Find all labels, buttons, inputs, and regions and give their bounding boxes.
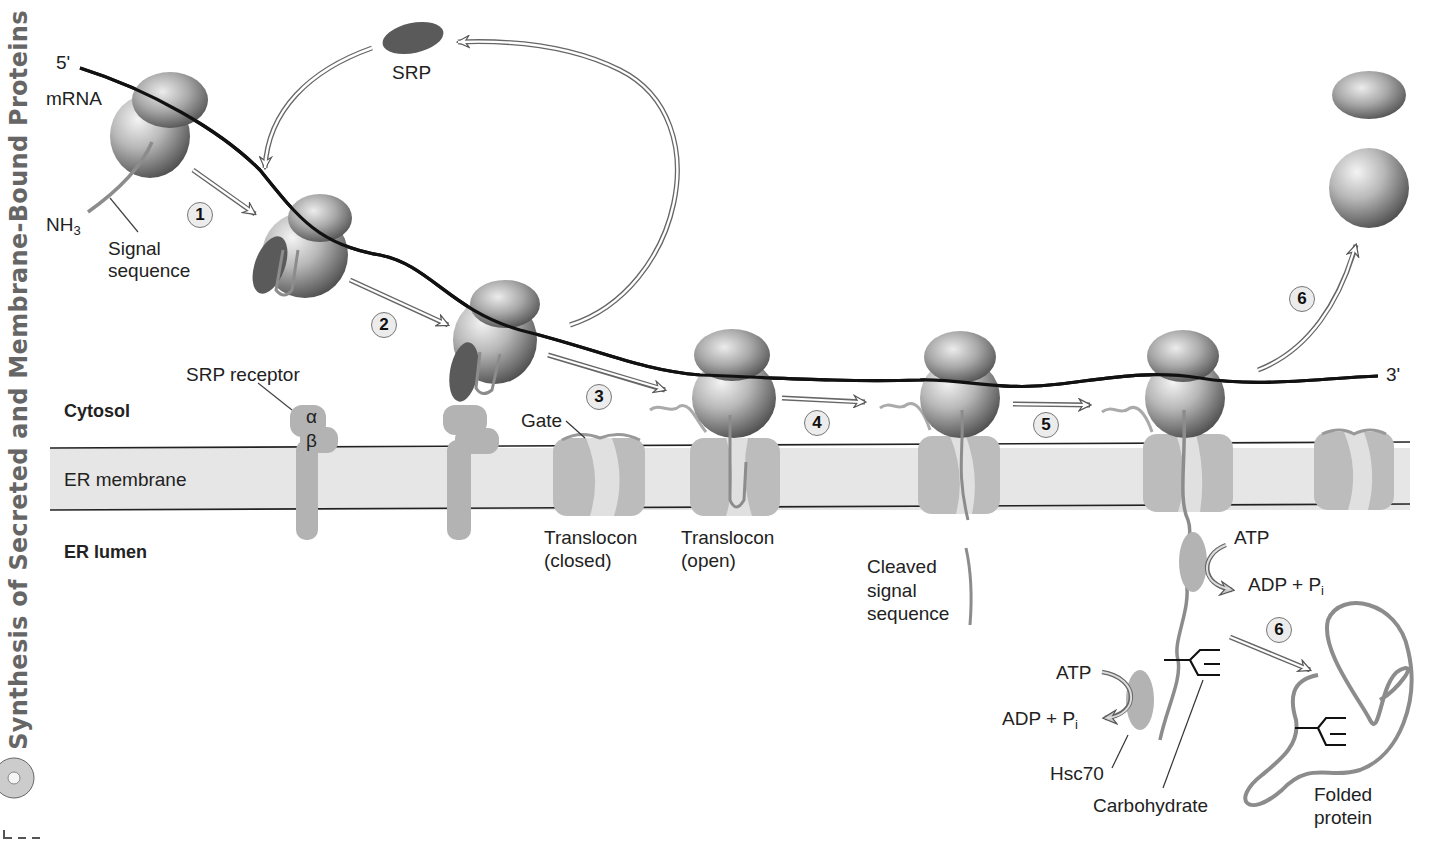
- diagram-canvas: [0, 0, 1435, 846]
- er-membrane-label: ER membrane: [64, 469, 187, 491]
- released-small-subunit: [1332, 71, 1406, 119]
- mrna-label: mRNA: [46, 88, 102, 110]
- gate-label: Gate: [521, 410, 562, 432]
- srp-cotranslational-translocation-diagram: Synthesis of Secreted and Membrane-Bound…: [0, 0, 1435, 846]
- hsc70-lower: [1102, 670, 1154, 768]
- three-prime-label: 3': [1386, 364, 1400, 386]
- hsc70-upper: [1179, 532, 1232, 592]
- step-4-marker: 4: [804, 410, 830, 436]
- translocon-closed-label-line2: (closed): [544, 550, 612, 572]
- adp-upper-label: ADP + Pi: [1248, 574, 1324, 602]
- step-6-folding-marker: 6: [1266, 617, 1292, 643]
- carbohydrate-chain: [1163, 650, 1220, 788]
- hsc70-label: Hsc70: [1050, 763, 1104, 785]
- srp-to-ribosome-arrow: [265, 48, 372, 168]
- atp-lower-label: ATP: [1056, 662, 1092, 684]
- step-5-marker: 5: [1033, 412, 1059, 438]
- translocon-3: [918, 436, 1000, 514]
- translocon-4: [1143, 434, 1233, 512]
- translocon-open: [690, 438, 780, 516]
- cleaved-signal-label-line1: Cleaved: [867, 556, 937, 578]
- carbohydrate-label: Carbohydrate: [1093, 795, 1208, 817]
- cleaved-signal-label-line2: signal: [867, 580, 917, 602]
- cytosol-label: Cytosol: [64, 400, 130, 422]
- nh3-label: NH3: [46, 214, 81, 242]
- step-1-marker: 1: [187, 202, 213, 228]
- cd-icon: [0, 758, 40, 838]
- folded-protein-label-line2: protein: [1314, 807, 1372, 829]
- srp-label: SRP: [392, 62, 431, 84]
- er-lumen-label: ER lumen: [64, 541, 147, 563]
- ribosome-srp-bound: [246, 194, 352, 298]
- step-3-marker: 3: [586, 384, 612, 410]
- folded-protein-label-line1: Folded: [1314, 784, 1372, 806]
- translocon-open-label-line1: Translocon: [681, 527, 774, 549]
- step-6-release-marker: 6: [1289, 286, 1315, 312]
- atp-upper-label: ATP: [1234, 527, 1270, 549]
- translocon-open-label-line2: (open): [681, 550, 736, 572]
- signal-sequence-label-line2: sequence: [108, 260, 190, 282]
- srp-receptor-label: SRP receptor: [186, 364, 300, 386]
- signal-sequence-label-line1: Signal: [108, 238, 161, 260]
- translocon-closed: [553, 421, 645, 516]
- beta-subunit-label: β: [306, 430, 317, 452]
- ribosome-docking: [445, 280, 540, 404]
- srp-particle: [380, 17, 447, 59]
- alpha-subunit-label: α: [306, 406, 317, 428]
- cleaved-signal-label-line3: sequence: [867, 603, 949, 625]
- translocon-closed-label-line1: Translocon: [544, 527, 637, 549]
- five-prime-label: 5': [56, 52, 70, 74]
- released-large-subunit: [1329, 148, 1409, 228]
- adp-lower-label: ADP + Pi: [1002, 708, 1078, 736]
- cleaved-signal-sequence: [966, 548, 971, 625]
- translocon-closed-right: [1314, 430, 1394, 510]
- step-2-marker: 2: [371, 312, 397, 338]
